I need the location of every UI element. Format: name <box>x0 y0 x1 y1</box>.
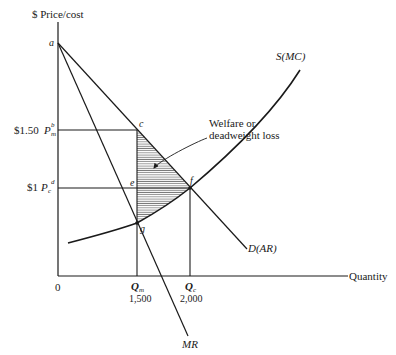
svg-text:P: P <box>40 181 48 193</box>
point-f-marker <box>188 186 192 190</box>
demand-label: D(AR) <box>247 242 277 255</box>
svg-text:2,000: 2,000 <box>180 293 203 304</box>
svg-text:m: m <box>51 130 56 138</box>
pc-tick-label: $1 P c d <box>27 178 55 195</box>
supply-curve <box>68 70 300 243</box>
origin-label: 0 <box>55 281 61 293</box>
point-a-label: a <box>49 37 54 48</box>
svg-text:$1.50: $1.50 <box>14 124 39 136</box>
demand-curve <box>58 43 247 249</box>
pm-tick-label: $1.50 P m b <box>14 121 56 138</box>
point-d-label: d <box>51 178 55 186</box>
point-g-label: g <box>140 223 145 234</box>
supply-label: S(MC) <box>276 50 306 63</box>
svg-text:Q: Q <box>131 280 139 292</box>
svg-text:c: c <box>48 187 52 195</box>
qm-tick-label: Q m 1,500 <box>129 280 152 304</box>
mr-label: MR <box>181 338 198 350</box>
deadweight-loss-region <box>137 130 190 223</box>
qc-tick-label: Q c 2,000 <box>180 280 203 304</box>
point-e-label: e <box>130 177 135 188</box>
svg-text:1,500: 1,500 <box>129 293 152 304</box>
point-g-marker <box>135 221 139 225</box>
dwl-annotation-line1: Welfare or <box>209 117 256 129</box>
svg-text:P: P <box>43 124 51 136</box>
point-b-label: b <box>51 121 55 129</box>
point-c-label: c <box>139 118 144 129</box>
svg-text:$1: $1 <box>27 181 38 193</box>
welfare-loss-diagram: $ Price/cost Quantity 0 a c e f g $1.50 … <box>0 0 396 355</box>
y-axis-label: $ Price/cost <box>32 8 84 20</box>
x-axis-label: Quantity <box>349 270 388 282</box>
dwl-annotation-line2: deadweight loss <box>209 129 280 141</box>
svg-text:Q: Q <box>185 280 193 292</box>
